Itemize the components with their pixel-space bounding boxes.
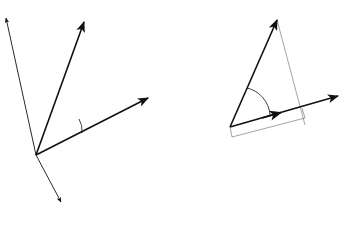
vector-diagram	[0, 0, 345, 244]
vector-a-prime-arrow	[6, 18, 36, 155]
panel-b	[230, 20, 338, 137]
vector-a-double-prime-arrow	[36, 155, 61, 202]
unit-vector-arrow	[262, 113, 281, 119]
vector-b-arrow-b	[230, 20, 277, 127]
angle-arc-b	[247, 88, 270, 115]
panel-a	[6, 18, 148, 202]
vector-a-arrow-b	[230, 96, 338, 127]
projection-bracket	[230, 108, 305, 137]
